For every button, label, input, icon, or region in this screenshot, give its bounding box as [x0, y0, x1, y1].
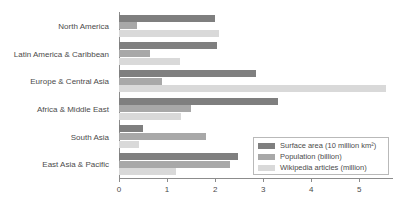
x-axis-tick [263, 178, 264, 182]
x-axis-tick [359, 178, 360, 182]
legend-label: Population (billion) [280, 152, 342, 162]
bar-row [119, 50, 150, 57]
bar-row [119, 168, 176, 175]
bar [119, 78, 162, 85]
legend-swatch-population [258, 154, 275, 160]
bar [119, 85, 386, 92]
bar [119, 161, 230, 168]
bar [119, 105, 191, 112]
y-axis-tick-label: North America [58, 21, 109, 30]
bar-row [119, 125, 143, 132]
x-axis-tick-label: 4 [309, 185, 313, 194]
x-axis-tick-label: 1 [165, 185, 169, 194]
y-axis-tick-label: East Asia & Pacific [42, 160, 109, 169]
x-axis-tick [167, 178, 168, 182]
legend-item: Population (billion) [258, 152, 384, 162]
x-axis-tick [215, 178, 216, 182]
legend-label: Wikipedia articles (million) [280, 163, 367, 173]
chart-legend: Surface area (10 million km²) Population… [253, 137, 389, 175]
bar [119, 113, 181, 120]
x-axis-tick [311, 178, 312, 182]
bar [119, 42, 217, 49]
bar-row [119, 15, 215, 22]
legend-swatch-surface-area [258, 143, 275, 149]
bar-row [119, 78, 162, 85]
bar [119, 15, 215, 22]
legend-label: Surface area (10 million km²) [280, 141, 376, 151]
bar-row [119, 161, 230, 168]
bar-row [119, 42, 217, 49]
y-axis-tick-label: Europe & Central Asia [30, 77, 109, 86]
legend-item: Wikipedia articles (million) [258, 163, 384, 173]
bar-row [119, 141, 139, 148]
bar [119, 22, 137, 29]
bar [119, 133, 206, 140]
bar-row [119, 85, 386, 92]
bar-row [119, 22, 137, 29]
x-axis-tick-label: 2 [213, 185, 217, 194]
x-axis-tick [119, 178, 120, 182]
bar-chart: North AmericaLatin America & CaribbeanEu… [0, 0, 393, 211]
bar-row [119, 98, 278, 105]
y-axis-tick-label: Latin America & Caribbean [14, 49, 109, 58]
x-axis-tick-label: 0 [117, 185, 121, 194]
bar [119, 141, 139, 148]
bar [119, 58, 180, 65]
legend-item: Surface area (10 million km²) [258, 141, 384, 151]
bar [119, 70, 256, 77]
bar-row [119, 70, 256, 77]
legend-swatch-wikipedia-articles [258, 165, 275, 171]
bar-row [119, 105, 191, 112]
x-axis-tick-label: 3 [261, 185, 265, 194]
bar [119, 50, 150, 57]
y-axis-tick-label: South Asia [71, 132, 109, 141]
bar-row [119, 30, 219, 37]
bar [119, 30, 219, 37]
bar [119, 125, 143, 132]
bar-row [119, 153, 238, 160]
x-axis-line [119, 178, 393, 179]
bar-row [119, 133, 206, 140]
x-axis-tick-label: 5 [357, 185, 361, 194]
y-axis-tick-label: Africa & Middle East [37, 104, 109, 113]
y-axis-labels: North AmericaLatin America & CaribbeanEu… [0, 12, 114, 178]
bar [119, 168, 176, 175]
bar-row [119, 58, 180, 65]
bar-row [119, 113, 181, 120]
bar [119, 98, 278, 105]
bar [119, 153, 238, 160]
